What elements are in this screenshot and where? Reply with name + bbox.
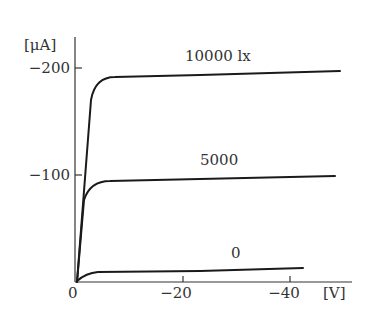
y-tick-label-200: −200 — [29, 59, 70, 77]
curve-label-5000: 5000 — [200, 151, 238, 169]
iv-characteristic-chart: [μA] −200 −100 0 −20 −40 [V] 10000 lx 50… — [0, 0, 368, 326]
curve-label-10000: 10000 lx — [185, 47, 251, 65]
x-tick-label-40: −40 — [268, 284, 300, 302]
origin-label: 0 — [68, 284, 78, 302]
x-tick-label-20: −20 — [160, 284, 192, 302]
curve-0-lx — [77, 268, 303, 281]
y-tick-label-100: −100 — [29, 166, 70, 184]
x-axis-unit: [V] — [323, 284, 346, 302]
curve-5000-lx — [77, 176, 335, 282]
curve-label-0: 0 — [231, 244, 241, 262]
y-axis-unit: [μA] — [24, 36, 56, 54]
